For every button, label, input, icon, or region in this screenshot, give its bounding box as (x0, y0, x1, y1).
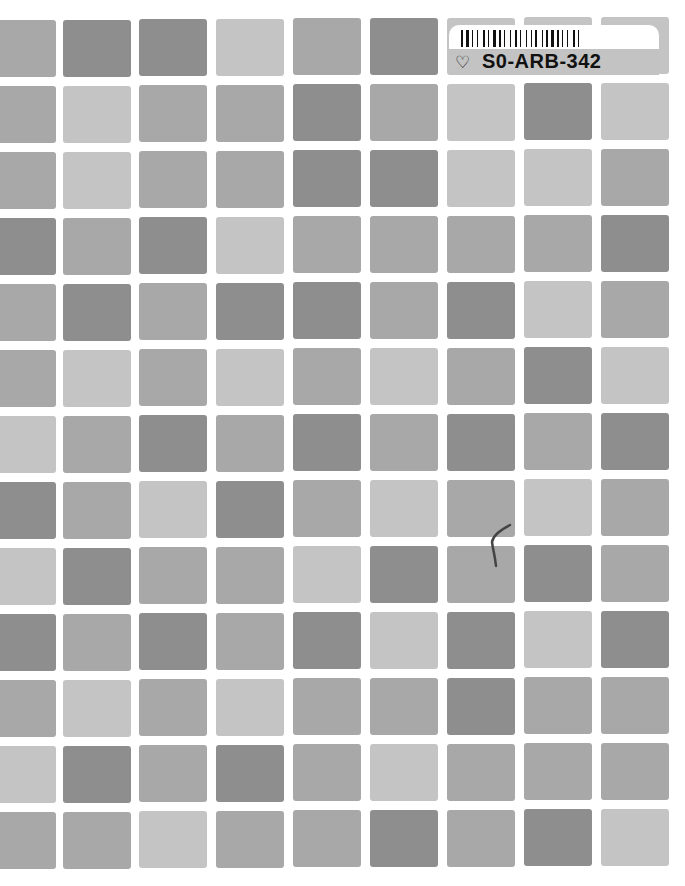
color-tile (293, 84, 361, 141)
color-tile (601, 743, 669, 800)
color-tile (447, 414, 515, 471)
color-tile (216, 19, 284, 76)
color-tile (370, 678, 438, 735)
color-tile (447, 744, 515, 801)
color-tile (139, 283, 207, 340)
color-tile (524, 677, 592, 734)
color-tile (63, 152, 131, 209)
barcode-bar (470, 30, 471, 47)
color-tile (293, 414, 361, 471)
color-tile (601, 809, 669, 866)
barcode-bar (533, 30, 534, 47)
color-tile (524, 149, 592, 206)
barcode-bar (474, 30, 476, 47)
barcode-bar (506, 30, 509, 47)
color-tile (63, 548, 131, 605)
color-tile (216, 481, 284, 538)
color-tile (601, 413, 669, 470)
tile-grid (0, 0, 685, 886)
color-tile (370, 282, 438, 339)
color-tile (216, 415, 284, 472)
barcode-bar (472, 30, 473, 47)
color-tile (370, 612, 438, 669)
color-tile (293, 216, 361, 273)
color-tile (447, 678, 515, 735)
color-tile (293, 612, 361, 669)
color-tile (293, 744, 361, 801)
color-tile (447, 612, 515, 669)
color-tile (139, 811, 207, 868)
color-tile (139, 415, 207, 472)
color-tile (370, 546, 438, 603)
color-tile (370, 414, 438, 471)
color-tile (601, 677, 669, 734)
color-tile (293, 282, 361, 339)
color-tile (0, 746, 56, 803)
pen-mark (485, 520, 525, 580)
barcode-bar (493, 30, 496, 47)
barcode-bar (526, 30, 527, 47)
color-tile (0, 284, 56, 341)
barcode-bar (576, 30, 577, 47)
color-tile (63, 218, 131, 275)
color-tile (216, 283, 284, 340)
color-tile (0, 812, 56, 869)
color-tile (447, 150, 515, 207)
barcode-bar (569, 30, 572, 47)
barcode-bar (504, 30, 505, 47)
color-tile (370, 348, 438, 405)
color-tile (63, 680, 131, 737)
color-tile (216, 349, 284, 406)
barcode-bar (490, 30, 492, 47)
barcode (461, 30, 641, 47)
color-tile (139, 745, 207, 802)
color-tile (139, 679, 207, 736)
barcode-bar (546, 30, 548, 47)
color-tile (216, 217, 284, 274)
sticker-code-strip: ♡ S0-ARB-342 (449, 49, 659, 75)
color-tile (139, 217, 207, 274)
barcode-bar (549, 30, 550, 47)
barcode-bar (542, 30, 543, 47)
barcode-bar (502, 30, 503, 47)
barcode-bar (499, 30, 501, 47)
color-tile (601, 83, 669, 140)
color-tile (370, 216, 438, 273)
color-tile (63, 284, 131, 341)
barcode-bar (464, 30, 465, 47)
color-tile (370, 18, 438, 75)
color-tile (524, 413, 592, 470)
barcode-bar (544, 30, 545, 47)
color-tile (0, 350, 56, 407)
barcode-bar (512, 30, 514, 47)
color-tile (216, 613, 284, 670)
barcode-bar (486, 30, 487, 47)
color-tile (0, 482, 56, 539)
barcode-bar (479, 30, 482, 47)
color-tile (139, 547, 207, 604)
color-tile (139, 19, 207, 76)
barcode-bar (578, 30, 579, 47)
barcode-bar (518, 30, 519, 47)
color-tile (293, 150, 361, 207)
color-tile (524, 545, 592, 602)
color-tile (524, 347, 592, 404)
color-tile (0, 218, 56, 275)
color-tile (63, 812, 131, 869)
color-tile (524, 743, 592, 800)
color-tile (293, 18, 361, 75)
color-tile (0, 680, 56, 737)
barcode-bar (573, 30, 575, 47)
color-tile (370, 84, 438, 141)
color-tile (0, 416, 56, 473)
color-tile (0, 614, 56, 671)
barcode-bar (510, 30, 511, 47)
barcode-bar (477, 30, 478, 47)
barcode-bar (466, 30, 469, 47)
color-tile (63, 614, 131, 671)
color-tile (370, 150, 438, 207)
color-tile (601, 281, 669, 338)
color-tile (216, 85, 284, 142)
color-tile (601, 545, 669, 602)
color-tile (447, 810, 515, 867)
